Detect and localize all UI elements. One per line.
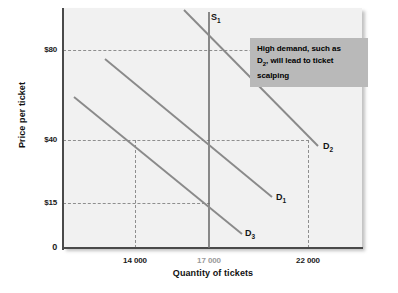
supply-demand-figure: $80 $40 $15 0 14 000 17 000 22 000 Price…	[0, 0, 398, 293]
gridline-price-40	[63, 140, 309, 141]
annotation-callout: High demand, such as D2, will lead to ti…	[250, 38, 368, 87]
gridline-price-15	[63, 203, 210, 204]
y-axis-line	[62, 8, 64, 250]
x-axis-line	[62, 247, 363, 249]
curve-label-d1-sub: 1	[283, 197, 287, 204]
curve-label-d1: D1	[276, 192, 286, 204]
y-axis-title: Price per ticket	[17, 65, 27, 165]
curve-label-s1: S1	[211, 12, 221, 24]
gridline-quantity-14000	[135, 140, 136, 248]
x-tick-17000: 17 000	[179, 256, 239, 265]
curve-label-d2-sub: 2	[330, 146, 334, 153]
gridline-quantity-22000	[308, 140, 309, 248]
x-tick-22000: 22 000	[278, 256, 338, 265]
annotation-line-3: scalping	[257, 71, 289, 80]
curve-label-d2: D2	[323, 141, 333, 153]
y-tick-15: $15	[17, 198, 57, 207]
x-tick-14000: 14 000	[105, 256, 165, 265]
annotation-line-2: , will lead to ticket	[266, 56, 333, 65]
y-tick-0: 0	[17, 242, 57, 252]
curve-label-d3: D3	[245, 228, 255, 240]
curve-label-d3-sub: 3	[252, 233, 256, 240]
y-tick-80: $80	[17, 45, 57, 54]
curve-label-s1-sub: 1	[217, 17, 221, 24]
x-axis-title: Quantity of tickets	[113, 268, 313, 278]
annotation-line-1: High demand, such as	[257, 44, 341, 53]
